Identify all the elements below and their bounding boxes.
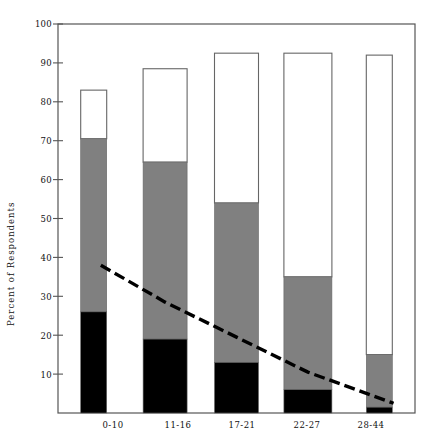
x-tick-label-28-44: 28-44 — [341, 420, 401, 430]
bar-segment-17-21-black — [215, 362, 259, 413]
bar-segment-22-27-white — [284, 53, 332, 277]
x-tick-label-17-21: 17-21 — [212, 420, 272, 430]
bar-group-22-27 — [284, 53, 332, 413]
bar-segment-28-44-black — [366, 407, 392, 413]
bar-group-17-21 — [215, 53, 259, 413]
bar-segment-0-10-white — [81, 90, 107, 139]
bar-group-11-16 — [143, 69, 187, 413]
plot-area — [0, 0, 429, 446]
chart-figure: Percent of Respondents 100 90 80 70 60 5… — [0, 0, 429, 446]
bar-segment-0-10-black — [81, 312, 107, 413]
x-tick-label-0-10: 0-10 — [83, 420, 143, 430]
bar-segment-22-27-black — [284, 390, 332, 413]
bar-group-0-10 — [81, 90, 107, 413]
x-tick-label-11-16: 11-16 — [148, 420, 208, 430]
x-tick-label-22-27: 22-27 — [277, 420, 337, 430]
bar-segment-0-10-gray — [81, 139, 107, 312]
bars-layer — [81, 53, 393, 413]
bar-group-28-44 — [366, 55, 392, 413]
bar-segment-11-16-gray — [143, 162, 187, 339]
bar-segment-11-16-white — [143, 69, 187, 162]
bar-segment-17-21-white — [215, 53, 259, 203]
bar-segment-28-44-white — [366, 55, 392, 355]
bar-segment-11-16-black — [143, 339, 187, 413]
